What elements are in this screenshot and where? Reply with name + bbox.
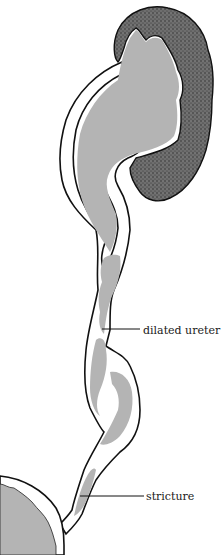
bladder [0, 476, 64, 555]
stricture-label: stricture [146, 491, 194, 502]
dilated-ureter-label: dilated ureter [143, 325, 220, 336]
ureter-diagram [0, 0, 221, 555]
